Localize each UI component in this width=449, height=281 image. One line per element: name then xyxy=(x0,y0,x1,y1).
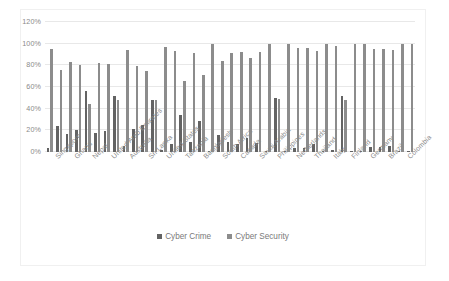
bar-group xyxy=(149,22,158,152)
chart-legend: Cyber CrimeCyber Security xyxy=(21,232,425,241)
bar-group xyxy=(377,22,386,152)
x-axis-category-labels: SingaporeGhanaNepalUnited Arab EmiratesA… xyxy=(45,155,415,215)
legend-swatch-icon xyxy=(157,234,162,239)
bar-cyber-security xyxy=(268,44,271,152)
bar-group xyxy=(45,22,54,152)
bar-group xyxy=(83,22,92,152)
bar-cyber-security xyxy=(136,66,139,152)
bar-cyber-crime xyxy=(47,148,50,152)
bar-group xyxy=(396,22,405,152)
bar-group xyxy=(111,22,120,152)
bar-group xyxy=(54,22,63,152)
bar-cyber-security xyxy=(344,100,347,152)
bar-group xyxy=(254,22,263,152)
bar-cyber-security xyxy=(259,52,262,152)
bar-cyber-security xyxy=(354,44,357,152)
bar-group xyxy=(121,22,130,152)
chart-container: 0%20%40%60%80%100%120% SingaporeGhanaNep… xyxy=(20,9,426,266)
bar-cyber-security xyxy=(98,63,101,152)
bar-group xyxy=(92,22,101,152)
bar-cyber-security xyxy=(363,44,366,152)
y-axis-tick-label: 80% xyxy=(26,60,41,69)
bar-group xyxy=(330,22,339,152)
bar-cyber-security xyxy=(287,44,290,152)
bar-cyber-security xyxy=(382,49,385,152)
bar-cyber-security xyxy=(107,64,110,152)
bar-cyber-security xyxy=(325,44,328,152)
bar-cyber-security xyxy=(60,70,63,152)
bar-group xyxy=(405,22,414,152)
y-axis-tick-label: 120% xyxy=(22,17,41,26)
bar-cyber-security xyxy=(411,44,414,152)
bar-group xyxy=(168,22,177,152)
bar-group xyxy=(339,22,348,152)
y-axis-tick-label: 60% xyxy=(26,82,41,91)
bar-group xyxy=(358,22,367,152)
legend-swatch-icon xyxy=(227,234,232,239)
bar-cyber-security xyxy=(373,49,376,152)
bar-cyber-crime xyxy=(56,126,59,152)
bar-cyber-security xyxy=(401,44,404,152)
bar-group xyxy=(386,22,395,152)
bar-cyber-crime xyxy=(113,96,116,152)
bar-group xyxy=(197,22,206,152)
bar-cyber-security xyxy=(335,46,338,152)
bar-group xyxy=(102,22,111,152)
bar-cyber-crime xyxy=(341,96,344,152)
bar-cyber-security xyxy=(174,51,177,152)
bar-group xyxy=(159,22,168,152)
bar-cyber-security xyxy=(249,58,252,152)
bar-group xyxy=(349,22,358,152)
y-axis-tick-label: 0% xyxy=(30,147,41,156)
bar-cyber-security xyxy=(230,53,233,152)
bar-cyber-crime xyxy=(151,100,154,152)
y-axis-tick-label: 40% xyxy=(26,103,41,112)
bar-cyber-security xyxy=(193,53,196,152)
bar-cyber-security xyxy=(211,44,214,152)
legend-label: Cyber Crime xyxy=(165,232,211,241)
y-axis-tick-label: 20% xyxy=(26,125,41,134)
bar-group xyxy=(206,22,215,152)
legend-item[interactable]: Cyber Crime xyxy=(157,232,211,241)
legend-item[interactable]: Cyber Security xyxy=(227,232,289,241)
bar-cyber-security xyxy=(306,48,309,152)
bar-cyber-security xyxy=(50,49,53,152)
y-axis-tick-label: 100% xyxy=(22,38,41,47)
bar-group xyxy=(263,22,272,152)
bar-group xyxy=(64,22,73,152)
bar-cyber-crime xyxy=(293,148,296,152)
legend-label: Cyber Security xyxy=(235,232,289,241)
bar-group xyxy=(367,22,376,152)
